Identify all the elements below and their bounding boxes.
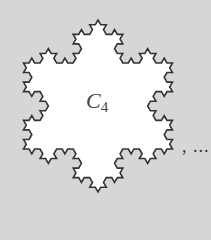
- label-main: C: [86, 88, 101, 113]
- snowflake-label: C4: [86, 88, 108, 116]
- ellipsis-continuation: , ...: [182, 136, 210, 157]
- label-subscript: 4: [101, 99, 109, 115]
